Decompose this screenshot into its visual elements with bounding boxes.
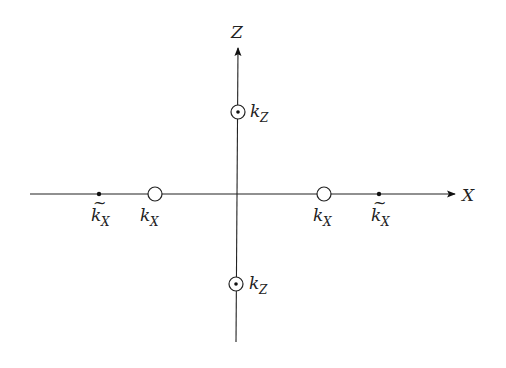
marker-kx-tilde-left: ~ k X	[91, 192, 110, 229]
center-dot	[236, 110, 240, 114]
marker-label: k	[140, 205, 150, 225]
diagram-canvas: X Z ~ k X k X k X ~ k X	[0, 0, 506, 368]
marker-label: k	[250, 101, 260, 121]
marker-kz-bottom: k Z	[229, 273, 268, 297]
marker-kx-right: k X	[313, 187, 332, 229]
marker-kz-top: k Z	[231, 101, 269, 125]
marker-label-sub: X	[100, 215, 110, 229]
marker-label-sub: X	[149, 215, 159, 229]
marker-label-sub: X	[322, 215, 332, 229]
marker-kx-left: k X	[140, 187, 162, 229]
z-axis-label: Z	[230, 22, 244, 42]
open-circle-icon	[317, 187, 331, 201]
marker-label: k	[371, 205, 381, 225]
marker-label-sub: Z	[258, 283, 268, 297]
marker-label-sub: Z	[259, 111, 269, 125]
marker-label: k	[313, 205, 323, 225]
open-circle-icon	[148, 187, 162, 201]
marker-label: k	[91, 205, 101, 225]
k-space-diagram: X Z ~ k X k X k X ~ k X	[0, 0, 506, 368]
z-axis	[236, 48, 238, 342]
marker-kx-tilde-right: ~ k X	[371, 192, 390, 229]
marker-label: k	[249, 273, 259, 293]
marker-label-sub: X	[380, 215, 390, 229]
x-axis-label: X	[460, 185, 475, 205]
center-dot	[234, 282, 238, 286]
